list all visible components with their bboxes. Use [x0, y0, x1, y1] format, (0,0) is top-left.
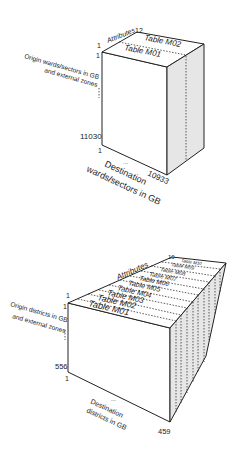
cube2-attributes-start: 1: [66, 292, 70, 299]
cube1-side-face: [167, 44, 204, 175]
cube-diagram-wards: Table M01 Table M02 Attributes 12 1 1 Or…: [23, 26, 204, 207]
cube1-attributes-max: 12: [135, 27, 143, 34]
cube1-dest-ellipsis: ...: [123, 159, 128, 165]
cube2-dest-ellipsis: ...: [111, 396, 116, 402]
cube2-attributes-max: 10: [168, 254, 175, 260]
cube1-dest-start: 1: [98, 147, 102, 154]
cube1-attributes-start: 1: [97, 42, 101, 49]
cube2-origin-end: 556: [55, 362, 68, 371]
cube2-dest-end: 459: [158, 427, 171, 436]
cube1-front-face: [102, 52, 167, 175]
cube-diagram-districts: Table M01 Table M02 Table M03 Table M04 …: [9, 254, 226, 436]
cube2-dest-start: 1: [65, 375, 69, 382]
cube1-origin-end: 11030: [80, 132, 102, 141]
cube1-origin-start: 1: [96, 52, 100, 59]
diagram-canvas: Table M01 Table M02 Attributes 12 1 1 Or…: [0, 0, 246, 454]
cube2-origin-start: 1: [63, 303, 67, 310]
